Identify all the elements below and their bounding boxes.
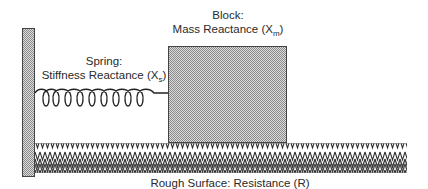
surface-label: Rough Surface: Resistance (R) (140, 176, 320, 189)
block-heading: Block: (168, 8, 288, 22)
mass-block (169, 47, 287, 143)
block-description: Mass Reactance (Xm) (168, 22, 288, 41)
block-label: Block: Mass Reactance (Xm) (168, 8, 288, 41)
block-subscript: m (273, 29, 280, 38)
spring-label: Spring: Stiffness Reactance (Xs) (38, 54, 170, 87)
spring-coil (35, 89, 168, 106)
wall (23, 29, 35, 177)
rough-surface (35, 143, 407, 173)
impedance-diagram: Spring: Stiffness Reactance (Xs) Block: … (0, 0, 428, 189)
spring-heading: Spring: (38, 54, 170, 68)
spring-description: Stiffness Reactance (Xs) (38, 68, 170, 87)
